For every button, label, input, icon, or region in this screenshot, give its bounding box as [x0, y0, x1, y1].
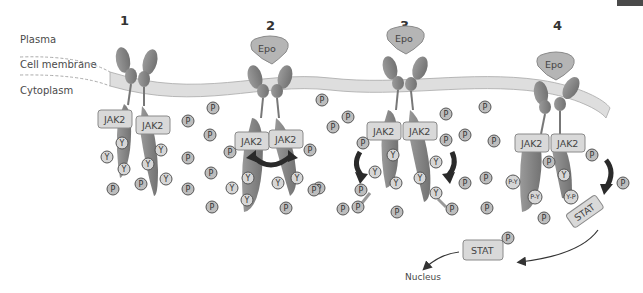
tyrosine-icon: Y	[155, 144, 167, 156]
svg-text:P: P	[484, 174, 489, 183]
svg-text:P: P	[228, 148, 233, 157]
phosphate-icon: P	[355, 184, 367, 196]
svg-text:P: P	[210, 203, 215, 212]
svg-text:Epo: Epo	[395, 33, 413, 44]
phosphate-icon: P	[459, 129, 471, 141]
tyrosine-icon: Y	[101, 151, 113, 163]
phosphate-icon: P	[280, 202, 292, 214]
phosphate-icon: P	[481, 202, 493, 214]
svg-text:Y: Y	[158, 146, 164, 155]
step-1-number: 1	[120, 13, 129, 28]
svg-text:P: P	[395, 208, 400, 217]
svg-text:P: P	[209, 169, 214, 178]
svg-text:Epo: Epo	[258, 43, 276, 54]
svg-text:P: P	[186, 154, 191, 163]
svg-text:P: P	[341, 205, 346, 214]
phosphate-icon: P	[357, 137, 369, 149]
phosphate-icon: P	[316, 94, 328, 106]
phosphate-icon: P	[205, 167, 217, 179]
svg-text:JAK2: JAK2	[240, 136, 262, 147]
svg-text:JAK2: JAK2	[408, 126, 430, 137]
phosphate-icon: P	[308, 184, 320, 196]
svg-text:Y: Y	[244, 196, 250, 205]
jak-stat-diagram: Plasma Cell membrane Cytoplasm 1 2 3 4 J…	[0, 0, 643, 293]
tyrosine-icon: Y	[291, 172, 303, 184]
phosphate-icon: P	[480, 172, 492, 184]
svg-text:Y: Y	[119, 139, 125, 148]
svg-text:P: P	[359, 186, 364, 195]
phosphate-icon: P	[586, 149, 598, 161]
phosphate-icon: P	[304, 144, 316, 156]
phosphate-icon: P	[224, 146, 236, 158]
step-2-jak2-right: JAK2	[269, 130, 303, 148]
tyrosine-icon: Y	[272, 177, 284, 189]
phosphate-icon: P	[182, 115, 194, 127]
svg-text:Y: Y	[163, 175, 169, 184]
phosphate-icon: P	[440, 108, 452, 120]
step-4-epo: Epo	[537, 52, 574, 80]
svg-text:P: P	[547, 158, 552, 167]
tyrosine-icon: Y	[414, 172, 426, 184]
phosphate-icon: P	[391, 206, 403, 218]
svg-text:Y: Y	[390, 151, 396, 160]
tyrosine-icon: Y	[558, 169, 570, 181]
svg-text:P-Y: P-Y	[530, 193, 539, 201]
svg-text:P: P	[320, 96, 325, 105]
svg-text:Y: Y	[417, 174, 423, 183]
svg-text:Y-P: Y-P	[565, 193, 576, 201]
svg-text:Y: Y	[121, 165, 127, 174]
svg-text:STAT: STAT	[471, 245, 494, 256]
phospho-tyrosine-icon: P-Y	[528, 190, 542, 204]
nucleus-arrow	[425, 252, 459, 268]
phosphate-icon: P	[182, 152, 194, 164]
svg-text:P: P	[492, 137, 497, 146]
svg-text:P: P	[331, 123, 336, 132]
svg-text:P: P	[284, 204, 289, 213]
phosphate-icon: P	[459, 177, 471, 189]
phosphate-icon: P	[446, 203, 458, 215]
svg-text:P: P	[312, 186, 317, 195]
svg-text:Y: Y	[433, 158, 439, 167]
phosphate-icon: P	[617, 177, 629, 189]
svg-text:Y: Y	[294, 174, 300, 183]
phosphate-icon: P	[204, 129, 216, 141]
step-3-epo: Epo	[387, 26, 424, 54]
svg-text:P: P	[506, 234, 511, 243]
membrane-label: Cell membrane	[20, 59, 97, 70]
phosphate-circles: P P P P P P P P P P P P P P P P P P P P …	[107, 94, 629, 244]
tyrosine-icon: Y	[160, 173, 172, 185]
phosphate-icon: P	[135, 178, 147, 190]
phosphate-icon: P	[182, 183, 194, 195]
svg-text:P: P	[590, 151, 595, 160]
phospho-tyrosine-icon: P-Y	[506, 175, 520, 189]
plasma-label: Plasma	[20, 34, 56, 45]
step-1-jak2-right: JAK2	[136, 116, 170, 134]
phosphate-icon: P	[538, 212, 550, 224]
svg-text:P: P	[208, 131, 213, 140]
svg-text:JAK2: JAK2	[141, 120, 163, 131]
svg-text:Y: Y	[104, 153, 110, 162]
svg-text:P: P	[361, 139, 366, 148]
tyrosine-icon: Y	[242, 172, 254, 184]
cytoplasm-label: Cytoplasm	[20, 85, 73, 96]
svg-text:JAK2: JAK2	[274, 134, 296, 145]
phosphate-icon: P	[342, 111, 354, 123]
svg-text:P: P	[346, 113, 351, 122]
tyrosine-icon: Y	[390, 177, 402, 189]
step-4-jak2-left: JAK2	[515, 134, 549, 152]
phosphate-icon: P	[479, 101, 491, 113]
stat-release-arrow	[520, 230, 598, 262]
svg-text:Y: Y	[433, 189, 439, 198]
step-2-number: 2	[266, 18, 275, 33]
svg-text:P: P	[444, 110, 449, 119]
phosphate-icon: P	[337, 203, 349, 215]
svg-text:Epo: Epo	[545, 59, 563, 70]
step-1-jak2-left: JAK2	[98, 110, 132, 128]
tyrosine-circles: Y Y Y Y Y Y Y Y Y Y Y Y Y Y Y Y Y Y	[101, 137, 570, 206]
tyrosine-icon: Y	[226, 182, 238, 194]
step-3-jak2-left: JAK2	[367, 122, 401, 140]
svg-text:P: P	[211, 104, 216, 113]
svg-text:Y: Y	[393, 179, 399, 188]
arrow-head-icon	[442, 172, 455, 184]
phosphate-icon: P	[352, 201, 364, 213]
